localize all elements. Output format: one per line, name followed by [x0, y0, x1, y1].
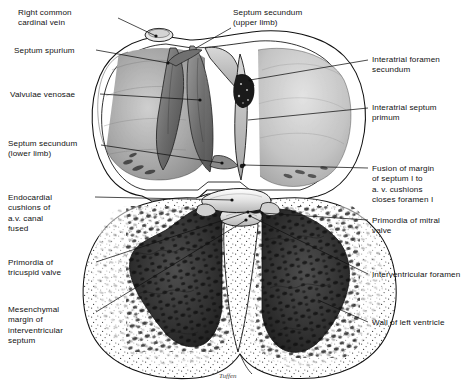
- label-primordia-of-mitral-valve: Primordia of mitral valve: [372, 216, 440, 237]
- leader-valvulae-venosae-dot: [198, 98, 201, 101]
- figure-canvas: Right common cardinal veinSeptum spurium…: [0, 0, 474, 392]
- label-septum-secundum-lower-limb: Septum secundum (lower limb): [8, 139, 77, 160]
- leader-septum-secundum-lower-limb-dot: [220, 161, 223, 164]
- label-endocardial-cushions-av-canal-fused: Endocardial cushions of a.v. canal fused: [8, 193, 52, 235]
- label-valvulae-venosae: Valvulae venosae: [10, 90, 75, 100]
- ventricular-region: [80, 189, 410, 386]
- label-right-common-cardinal-vein: Right common cardinal vein: [18, 8, 72, 29]
- label-mesenchymal-margin-of-interventricular-septum: Mesenchymal margin of interventricular s…: [8, 305, 63, 347]
- leader-right-common-cardinal-vein: [118, 18, 156, 36]
- label-septum-spurium: Septum spurium: [14, 46, 75, 56]
- label-septum-secundum-upper-limb: Septum secundum (upper limb): [233, 8, 302, 29]
- leader-primordia-mitral-valve-dot: [260, 211, 263, 214]
- leader-right-common-cardinal-vein-dot: [154, 34, 157, 37]
- label-primordia-of-tricuspid-valve: Primordia of tricuspid valve: [8, 258, 61, 279]
- leader-interatrial-foramen-secundum-dot: [248, 78, 251, 81]
- label-fusion-of-margin-of-septum-i: Fusion of margin of septum I to a. v. cu…: [372, 164, 434, 206]
- label-interventricular-foramen: Interventricular foramen: [372, 270, 460, 280]
- leader-primordia-tricuspid-valve-dot: [246, 210, 249, 213]
- right-common-cardinal-vein: [145, 28, 173, 41]
- label-wall-of-left-ventricle: Wall of left ventricle: [372, 318, 445, 328]
- leader-interventricular-foramen-dot: [248, 214, 251, 217]
- leader-septum-spurium-dot: [166, 61, 169, 64]
- right-ventricle-trabeculae: [126, 202, 230, 352]
- leader-mesenchymal-margin-dot: [244, 218, 247, 221]
- left-ventricle-trabeculae: [256, 202, 360, 358]
- label-interatrial-septum-primum: Interatrial septum primum: [372, 103, 437, 124]
- leader-fusion-of-margin-dot: [242, 163, 245, 166]
- atrial-region: [92, 28, 365, 211]
- leader-endocardial-cushions-dot: [230, 198, 233, 201]
- artist-signature: Tuffen: [219, 372, 237, 380]
- label-interatrial-foramen-secundum: Interatrial foramen secundum: [372, 55, 440, 76]
